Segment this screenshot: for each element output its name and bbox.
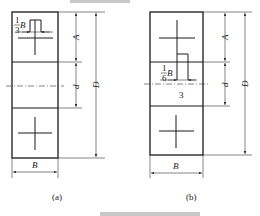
- panel-b-fraction-num: 1: [162, 63, 167, 73]
- panel-a-label-D: D: [91, 81, 101, 89]
- panel-b-label-d: d: [220, 82, 230, 87]
- panel-a-label-A: A: [71, 34, 81, 41]
- panel-b: 1 6 B 3 A d D B (b): [144, 12, 252, 202]
- panel-b-region-number: 3: [179, 90, 184, 100]
- panel-a: 1 3 B A d D B (a): [6, 12, 105, 202]
- panel-a-fraction-var: B: [20, 20, 26, 30]
- panel-b-label-B: B: [173, 161, 179, 171]
- panel-b-label-D: D: [240, 80, 250, 88]
- cropped-text-bottom: [100, 212, 200, 216]
- panel-b-fraction-var: B: [167, 68, 173, 78]
- panel-b-caption: (b): [186, 192, 197, 202]
- panel-a-label-B: B: [32, 160, 38, 170]
- panel-b-label-A: A: [220, 34, 230, 41]
- cropped-text-top: [70, 0, 130, 3]
- panel-a-fraction-num: 1: [15, 15, 20, 25]
- technical-diagram: 1 3 B A d D B (a): [0, 0, 260, 216]
- panel-a-caption: (a): [52, 192, 62, 202]
- panel-a-label-d: d: [71, 84, 81, 89]
- panel-b-step: [177, 54, 188, 80]
